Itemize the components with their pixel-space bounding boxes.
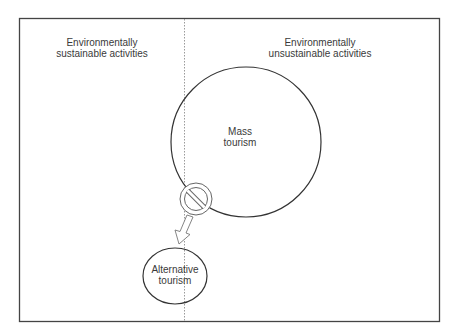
right-region-label-line1: Environmentally — [255, 37, 385, 48]
mass-tourism-label-line2: tourism — [208, 137, 272, 148]
alternative-tourism-label-line2: tourism — [143, 275, 207, 286]
left-region-label-line1: Environmentally — [42, 37, 162, 48]
mass-tourism-label: Mass tourism — [208, 126, 272, 148]
right-region-label-line2: unsustainable activities — [255, 48, 385, 59]
mass-tourism-label-line1: Mass — [208, 126, 272, 137]
arrow-down-left-icon — [175, 215, 193, 244]
left-region-label: Environmentally sustainable activities — [42, 37, 162, 59]
no-entry-icon — [180, 183, 212, 215]
diagram-frame — [20, 19, 440, 322]
right-region-label: Environmentally unsustainable activities — [255, 37, 385, 59]
alternative-tourism-label: Alternative tourism — [143, 264, 207, 286]
alternative-tourism-label-line1: Alternative — [143, 264, 207, 275]
left-region-label-line2: sustainable activities — [42, 48, 162, 59]
